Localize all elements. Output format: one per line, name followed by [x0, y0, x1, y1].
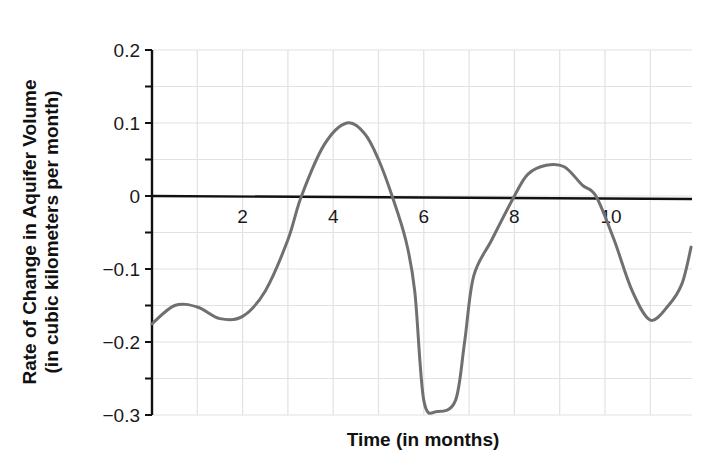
x-tick-label: 8: [509, 206, 520, 227]
x-axis-title: Time (in months): [347, 429, 500, 450]
y-axis-title-line2: (in cubic kilometers per month): [41, 91, 62, 374]
y-tick-label: −0.1: [102, 259, 140, 280]
line-chart: 246810 0.20.10−0.1−0.2−0.3 Time (in mont…: [0, 0, 711, 474]
y-tick-label: 0.2: [114, 40, 140, 61]
y-axis-title-line1: Rate of Change in Aquifer Volume: [19, 79, 40, 384]
y-tick-label: −0.2: [102, 332, 140, 353]
x-tick-label: 6: [419, 206, 430, 227]
rate-of-change-curve: [152, 123, 691, 414]
y-axis-title: Rate of Change in Aquifer Volume (in cub…: [19, 79, 62, 384]
y-tick-label: 0.1: [114, 113, 140, 134]
y-axis: [145, 50, 152, 415]
y-tick-label: −0.3: [102, 405, 140, 426]
x-tick-label: 2: [237, 206, 248, 227]
y-tick-label: 0: [129, 186, 140, 207]
y-axis-tick-labels: 0.20.10−0.1−0.2−0.3: [102, 40, 140, 426]
x-tick-label: 4: [328, 206, 339, 227]
